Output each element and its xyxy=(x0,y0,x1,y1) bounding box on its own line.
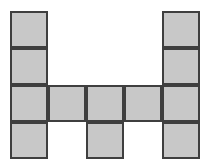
grid-square-filled xyxy=(162,122,200,159)
grid-square-filled xyxy=(48,85,86,122)
grid-square-filled xyxy=(124,85,162,122)
grid-square-filled xyxy=(86,122,124,159)
grid-square-empty xyxy=(48,48,86,85)
grid-square-filled xyxy=(86,85,124,122)
grid-square-empty xyxy=(124,11,162,48)
grid-square-empty xyxy=(86,48,124,85)
grid-square-empty xyxy=(124,48,162,85)
polyomino-figure xyxy=(0,0,208,168)
grid-square-filled xyxy=(162,48,200,85)
grid-layer xyxy=(0,0,208,168)
grid-square-empty xyxy=(48,122,86,159)
grid-square-filled xyxy=(162,11,200,48)
grid-square-empty xyxy=(48,11,86,48)
grid-square-filled xyxy=(10,122,48,159)
grid-square-filled xyxy=(162,85,200,122)
grid-square-filled xyxy=(10,85,48,122)
grid-square-empty xyxy=(124,122,162,159)
grid-square-empty xyxy=(86,11,124,48)
grid-square-filled xyxy=(10,11,48,48)
grid-square-filled xyxy=(10,48,48,85)
